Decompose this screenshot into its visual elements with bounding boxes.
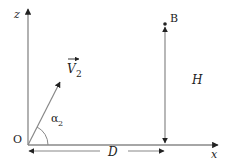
distance-label: D	[107, 145, 118, 159]
z-axis-label: z	[13, 8, 20, 21]
origin-label: O	[13, 133, 22, 146]
x-axis-label: x	[211, 148, 218, 161]
velocity-subscript: 2	[76, 69, 82, 79]
diagram-canvas: z x O B V 2 α 2 H D	[0, 0, 231, 162]
height-label: H	[191, 73, 203, 87]
angle-arc	[37, 127, 48, 145]
angle-subscript: 2	[58, 119, 63, 128]
point-b-label: B	[170, 12, 178, 25]
point-b-marker	[163, 22, 167, 26]
